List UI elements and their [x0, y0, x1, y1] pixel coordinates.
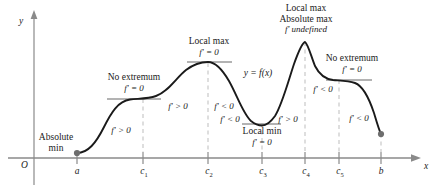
point-b-marker [378, 131, 384, 137]
y-axis-label: y [19, 16, 23, 27]
x-axis-label: x [424, 161, 428, 172]
tick-label-a: a [75, 166, 80, 178]
derivative-sign-c3-right: f' > 0 [278, 114, 298, 124]
derivative-sign-a-c1: f' > 0 [111, 125, 131, 135]
annotation-no-extremum-c1: No extremum f' = 0 [108, 72, 161, 93]
annotation-absolute-max-c4: Local max Absolute max f' undefined [279, 3, 332, 34]
annotation-local-max-c2-line-1: Local max [189, 36, 229, 47]
derivative-sign-c5-b: f' < 0 [349, 113, 369, 123]
origin-label: O [21, 160, 28, 171]
derivative-sign-c3-left: f' < 0 [220, 114, 240, 124]
annotation-no-extremum-c5-line-2: f' = 0 [326, 64, 379, 74]
annotation-no-extremum-c1-line-2: f' = 0 [108, 83, 161, 93]
x-axis [8, 154, 421, 162]
annotation-local-min-c3: Local min f' = 0 [243, 126, 282, 147]
tick-label-c3-sub: 3 [263, 171, 266, 178]
graph-canvas [0, 0, 443, 188]
tick-label-b: b [379, 166, 384, 178]
derivative-sign-c1-c2: f' > 0 [168, 101, 188, 111]
function-graph-figure: y x O a c1 c2 c3 c4 c5 b Absolute min No… [0, 0, 443, 188]
annotation-local-max-c2: Local max f' = 0 [189, 36, 229, 57]
annotation-local-min-c3-line-2: f' = 0 [243, 137, 282, 147]
tick-label-c2-sub: 2 [209, 171, 212, 178]
tick-label-a-text: a [75, 166, 80, 176]
tick-label-c5: c5 [336, 166, 343, 178]
annotation-absolute-max-c4-line-3: f' undefined [279, 24, 332, 34]
tick-label-c4-sub: 4 [306, 171, 309, 178]
derivative-sign-c4-c5: f' < 0 [313, 84, 333, 94]
annotation-no-extremum-c5-line-1: No extremum [326, 53, 379, 64]
tick-label-c5-sub: 5 [340, 171, 343, 178]
annotation-no-extremum-c5: No extremum f' = 0 [326, 53, 379, 74]
annotation-local-min-c3-line-1: Local min [243, 126, 282, 137]
curve-equation-label: y = f(x) [244, 68, 273, 79]
tick-label-c3: c3 [259, 166, 266, 178]
annotation-absolute-max-c4-line-1: Local max [279, 3, 332, 14]
tick-label-c2: c2 [205, 166, 212, 178]
annotation-local-max-c2-line-2: f' = 0 [189, 47, 229, 57]
derivative-sign-c2-c3: f' < 0 [214, 101, 234, 111]
annotation-absolute-min-line-1: Absolute [39, 132, 73, 143]
annotation-absolute-min-line-2: min [39, 143, 73, 154]
tick-label-c4: c4 [302, 166, 309, 178]
tick-label-c1-sub: 1 [144, 171, 147, 178]
annotation-absolute-min: Absolute min [39, 132, 73, 153]
annotation-no-extremum-c1-line-1: No extremum [108, 72, 161, 83]
tick-label-c1: c1 [140, 166, 147, 178]
tick-label-b-text: b [379, 166, 384, 176]
point-a-marker [74, 150, 80, 156]
annotation-absolute-max-c4-line-2: Absolute max [279, 14, 332, 25]
